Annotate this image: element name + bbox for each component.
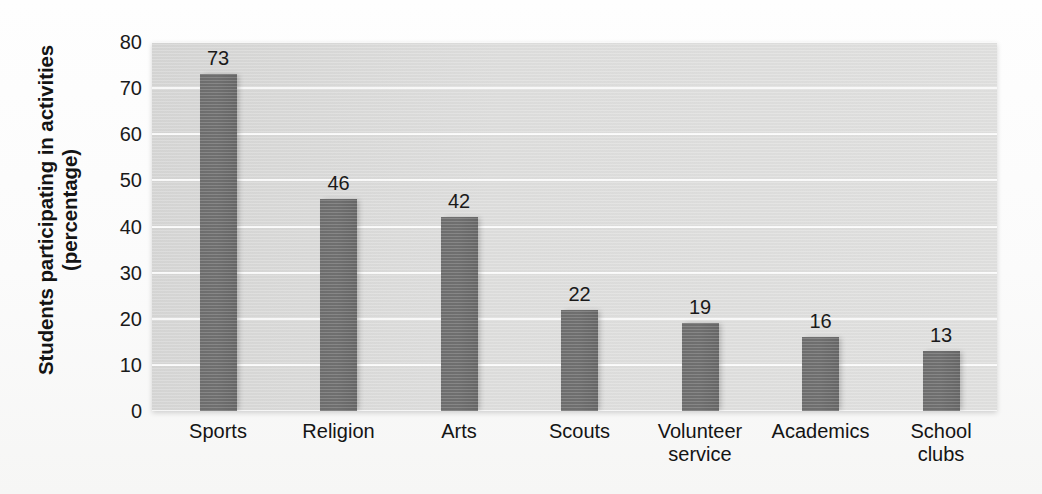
bar-value-label: 46 bbox=[304, 173, 374, 193]
y-axis-tick-label: 10 bbox=[96, 355, 142, 375]
gridline bbox=[152, 42, 997, 43]
gridline bbox=[152, 87, 997, 89]
y-axis-tick-label: 70 bbox=[96, 78, 142, 98]
gridline bbox=[152, 133, 997, 135]
y-axis-tick-label: 40 bbox=[96, 217, 142, 237]
bar-value-label: 22 bbox=[545, 284, 615, 304]
bar bbox=[441, 217, 478, 411]
x-axis-category-label: Schoolclubs bbox=[866, 420, 1016, 466]
bar-value-label: 42 bbox=[424, 191, 494, 211]
plot-area bbox=[152, 42, 997, 411]
x-axis-category-label-line: School bbox=[866, 420, 1016, 443]
bar bbox=[320, 199, 357, 411]
bar-chart-figure: Students participating in activities (pe… bbox=[0, 0, 1042, 494]
y-axis-title-line-2: (percentage) bbox=[58, 149, 82, 271]
bar-value-label: 16 bbox=[786, 311, 856, 331]
bar bbox=[561, 310, 598, 411]
bar bbox=[802, 337, 839, 411]
bar-value-label: 73 bbox=[183, 48, 253, 68]
gridline bbox=[152, 272, 997, 274]
gridline bbox=[152, 179, 997, 181]
y-axis-tick-label: 80 bbox=[96, 32, 142, 52]
bar bbox=[923, 351, 960, 411]
bar bbox=[682, 323, 719, 411]
x-axis-category-label-line: clubs bbox=[866, 443, 1016, 466]
bar-value-label: 13 bbox=[906, 325, 976, 345]
y-axis-tick-label: 0 bbox=[96, 401, 142, 421]
gridline bbox=[152, 226, 997, 228]
y-axis-title-line-1: Students participating in activities bbox=[34, 45, 58, 375]
x-axis-category-labels: SportsReligionArtsScoutsVolunteerservice… bbox=[0, 420, 1042, 490]
bar bbox=[200, 74, 237, 411]
y-axis-tick-label: 50 bbox=[96, 170, 142, 190]
y-axis-tick-label: 30 bbox=[96, 263, 142, 283]
y-axis-title: Students participating in activities (pe… bbox=[29, 0, 87, 420]
y-axis-tick-label: 60 bbox=[96, 124, 142, 144]
y-axis-tick-label: 20 bbox=[96, 309, 142, 329]
x-axis-category-label-line: service bbox=[625, 443, 775, 466]
bar-value-label: 19 bbox=[665, 297, 735, 317]
